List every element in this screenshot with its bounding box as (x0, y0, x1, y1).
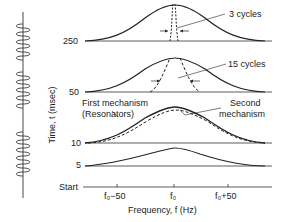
waveform-icon (16, 12, 30, 198)
label-mechanism: mechanism (219, 109, 265, 119)
y-tick-50: 50 (69, 87, 79, 97)
y-tick-5: 5 (76, 160, 81, 170)
curve-5ms (85, 148, 265, 166)
x-axis-label: Frequency, f (Hz) (128, 205, 197, 215)
x-tick-f0: f₀ (170, 191, 177, 201)
x-tick-f0-plus-50: f₀+50 (215, 191, 237, 201)
x-tick-f0-minus-50: f₀−50 (104, 191, 126, 201)
label-first-mechanism: First mechanism (82, 98, 148, 108)
y-tick-250: 250 (63, 36, 78, 46)
y-tick-10: 10 (71, 138, 81, 148)
spectrum-diagram: Time, t (msec) 250 50 10 5 Start 3 cycle… (0, 0, 282, 222)
label-3-cycles: 3 cycles (229, 9, 262, 19)
y-axis-label: Time, t (msec) (47, 86, 57, 143)
label-15-cycles: 15 cycles (228, 59, 266, 69)
label-resonators: (Resonators) (82, 109, 134, 119)
label-second: Second (230, 98, 261, 108)
y-tick-start: Start (59, 182, 79, 192)
